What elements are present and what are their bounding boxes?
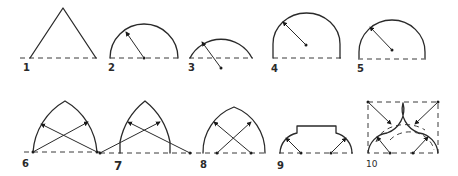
figure-5-horseshoe-arch: 5 [357, 20, 428, 74]
arch-curve [273, 13, 340, 58]
arch-curve [359, 20, 425, 58]
arch-curve [203, 107, 265, 153]
radius-arrow [370, 27, 392, 50]
figure-1-triangular-arch: 1 [20, 8, 97, 73]
radius-arrow-bottom-left [377, 137, 390, 153]
figure-8-drop-arch: 8 [196, 107, 268, 170]
figure-10-ogee-arch: 10 [366, 101, 440, 170]
arch-curve [110, 24, 178, 58]
figure-label: 5 [357, 63, 364, 74]
figure-label: 6 [22, 158, 29, 169]
figure-label: 1 [23, 62, 30, 73]
radius-arrow-top-right [415, 102, 438, 124]
triangle-outline [30, 8, 96, 58]
arch-outline [280, 126, 352, 153]
radius-arrow-left [128, 122, 190, 153]
figure-9-shouldered-arch: 9 [277, 126, 353, 171]
figure-label: 4 [271, 63, 278, 74]
figure-4-stilted-arch: 4 [271, 13, 341, 74]
radius-arrow [202, 42, 221, 68]
radius-arrow-top-left [368, 102, 391, 124]
figure-label: 3 [188, 62, 195, 73]
figure-3-segmental-arch: 3 [188, 39, 253, 73]
figure-label: 8 [200, 159, 207, 170]
radius-arrow-left [41, 124, 97, 152]
figure-label: 7 [114, 159, 122, 173]
figure-label: 9 [277, 160, 284, 171]
radius-arrow-bottom-right [413, 137, 428, 153]
figure-label: 10 [366, 159, 378, 169]
arch-curve [190, 39, 252, 58]
radius-arrow-right [33, 122, 88, 152]
radius-arrow-right [331, 138, 346, 153]
figure-2-semicircular-arch: 2 [108, 24, 178, 73]
radius-arrow-right [100, 122, 160, 153]
arch-types-diagram: 1 2 3 4 5 6 [0, 0, 458, 176]
figure-6-equilateral-pointed-arch: 6 [22, 101, 100, 169]
radius-arrow [126, 32, 144, 58]
figure-7-lancet-arch: 7 [99, 101, 193, 173]
radius-arrow [283, 22, 306, 45]
radius-arrow-left [286, 138, 301, 153]
arch-curve [120, 101, 170, 153]
construction-box [368, 102, 438, 153]
figure-label: 2 [108, 62, 115, 73]
arch-curve [33, 101, 97, 152]
arch-curve [368, 103, 438, 153]
construction-arc-right [390, 132, 434, 150]
